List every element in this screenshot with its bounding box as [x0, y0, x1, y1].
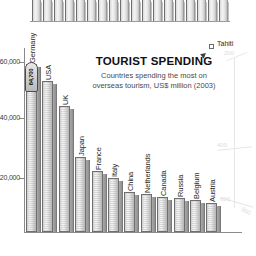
top-fragment-bar	[32, 0, 41, 21]
bar-label-usa: USA	[45, 65, 52, 80]
bar-side-face	[152, 197, 156, 232]
map-contour-label-600: 600	[220, 196, 230, 202]
bar-side-face	[185, 201, 189, 232]
bar-label-china: China	[127, 172, 134, 191]
bar-canada: Canada	[157, 197, 172, 232]
bar-usa: USA	[42, 81, 57, 232]
map-meridian-line	[234, 58, 235, 208]
bar-front-face	[42, 81, 53, 232]
bar-label-germany: Germany	[29, 33, 36, 63]
map-contour-label-200: 200	[224, 50, 234, 56]
top-fragment-bar	[43, 0, 52, 21]
top-fragment-bar	[219, 0, 228, 21]
top-fragment-bar	[54, 0, 63, 21]
bar-side-face	[168, 200, 172, 232]
tahiti-marker-icon	[209, 44, 214, 49]
bar-side-face	[86, 160, 90, 232]
leader-badge: 64,700	[25, 62, 38, 92]
bar-netherlands: Netherlands	[141, 194, 156, 232]
top-fragment-bar	[175, 0, 184, 21]
map-contour-label-400: 400	[217, 142, 227, 148]
y-tick-label-20000: $20,000	[0, 174, 20, 182]
bar-front-face	[108, 178, 119, 232]
bar-france: France	[92, 171, 107, 232]
bar-front-face	[157, 197, 168, 232]
top-fragment-bar	[87, 0, 96, 21]
top-fragment-bar	[197, 0, 206, 21]
bar-side-face	[119, 181, 123, 232]
top-fragment-bar	[164, 0, 173, 21]
y-tick-label-40000: $40,000	[0, 114, 20, 122]
top-fragment-bar	[109, 0, 118, 21]
bar-side-face	[37, 67, 41, 232]
bar-front-face	[174, 198, 185, 232]
bar-side-face	[103, 174, 107, 232]
bar-label-netherlands: Netherlands	[144, 154, 151, 193]
top-fragment-bar	[76, 0, 85, 21]
tahiti-pointer-icon	[199, 51, 206, 58]
bar-italy: Italy	[108, 178, 123, 232]
bar-side-face	[53, 84, 57, 232]
bar-uk: UK	[59, 106, 74, 232]
map-overlay: 200 400 600 800 Tahiti	[196, 30, 256, 230]
bar-label-france: France	[95, 147, 102, 170]
top-fragment-bar	[65, 0, 74, 21]
map-contour-label-800: 800	[240, 206, 252, 216]
bar-side-face	[135, 195, 139, 232]
bar-side-face	[70, 109, 74, 232]
top-chart-baseline	[30, 21, 230, 22]
bar-label-canada: Canada	[160, 170, 167, 196]
bar-front-face	[124, 192, 135, 232]
y-tick-label-60000: $60,000	[0, 58, 20, 66]
top-chart-fragment	[0, 0, 256, 23]
leader-badge-value: 64,700	[29, 68, 35, 85]
bar-front-face	[92, 171, 103, 232]
bar-front-face	[59, 106, 70, 232]
x-axis	[24, 232, 242, 233]
bar-china: China	[124, 192, 139, 232]
top-fragment-bar	[208, 0, 217, 21]
bar-front-face	[141, 194, 152, 232]
bar-label-japan: Japan	[78, 136, 85, 156]
top-fragment-bar	[120, 0, 129, 21]
bar-russia: Russia	[174, 198, 189, 232]
top-fragment-bar	[142, 0, 151, 21]
top-fragment-bar	[98, 0, 107, 21]
bar-label-russia: Russia	[177, 175, 184, 197]
bar-front-face	[75, 157, 86, 232]
bar-label-uk: UK	[62, 95, 69, 105]
bar-label-italy: Italy	[111, 164, 118, 177]
top-fragment-bar	[186, 0, 195, 21]
top-fragment-bar	[131, 0, 140, 21]
bar-japan: Japan	[75, 157, 90, 232]
top-fragment-bar	[153, 0, 162, 21]
tahiti-label: Tahiti	[217, 40, 233, 47]
